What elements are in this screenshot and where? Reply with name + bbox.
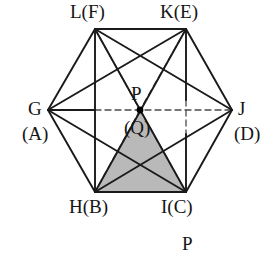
label-P-top: P xyxy=(131,84,142,103)
secondary-label-A: (A) xyxy=(22,124,48,143)
center-point-P xyxy=(137,107,144,114)
figure-canvas: L(F)K(E)JI(C)H(B)G(A)(D) P (Q) P xyxy=(0,0,275,256)
hexagon-edge-HG xyxy=(48,110,95,192)
vertex-label-H: H(B) xyxy=(69,197,108,216)
vertex-label-G: G xyxy=(28,99,42,118)
caption-P: P xyxy=(182,234,193,253)
hexagon-edge-GL xyxy=(48,29,95,110)
hexagon-edge-JI xyxy=(186,110,232,192)
vertex-label-K: K(E) xyxy=(160,2,198,21)
point-markers-layer xyxy=(137,107,144,114)
hexagon-edge-KJ xyxy=(186,29,232,110)
secondary-label-D: (D) xyxy=(234,124,260,143)
vertex-label-I: I(C) xyxy=(161,197,193,216)
vertex-label-J: J xyxy=(238,99,245,118)
label-Q-bottom: (Q) xyxy=(124,118,150,137)
vertex-label-L: L(F) xyxy=(70,2,105,21)
